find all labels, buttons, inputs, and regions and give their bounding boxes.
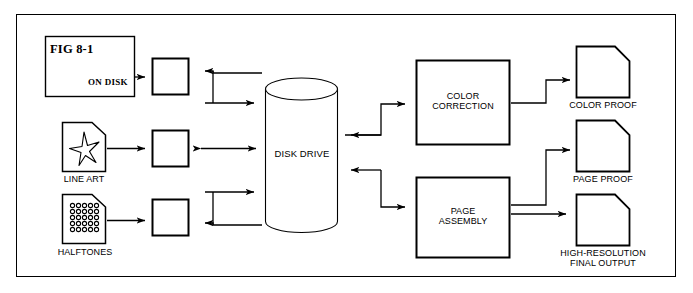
output-label-final-output-line2: FINAL OUTPUT — [552, 258, 654, 268]
fig-title-label: FIG 8-1 — [50, 42, 93, 57]
input-label-line-art: LINE ART — [44, 174, 124, 184]
output-label-page-proof: PAGE PROOF — [558, 174, 648, 184]
process-label-page-assembly-line2: ASSEMBLY — [417, 216, 509, 226]
output-label-color-proof: COLOR PROOF — [558, 100, 648, 110]
disk-drive-label: DISK DRIVE — [261, 149, 343, 160]
diagram-canvas: FIG 8-1 ON DISK LINE ART HALFTONES DISK … — [0, 0, 693, 293]
output-label-final-output-line1: HIGH-RESOLUTION — [552, 248, 654, 258]
process-label-page-assembly-line1: PAGE — [417, 206, 509, 216]
input-label-halftones: HALFTONES — [42, 247, 128, 257]
diagram-frame — [16, 14, 676, 277]
process-label-color-correction-line1: COLOR — [417, 91, 509, 101]
on-disk-label: ON DISK — [88, 77, 128, 87]
process-label-color-correction-line2: CORRECTION — [417, 101, 509, 111]
